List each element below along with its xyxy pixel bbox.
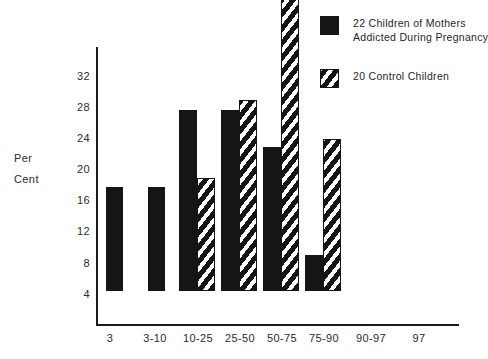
y-axis-ticks: 32 28 24 20 16 12 8 4 (52, 0, 90, 359)
legend-swatch-hatch-icon (320, 69, 339, 88)
plot-area (96, 0, 459, 326)
x-tick-25-50: 25-50 (225, 332, 255, 344)
legend-item-addicted: 22 Children of Mothers Addicted During P… (320, 16, 488, 44)
x-tick-75-90: 75-90 (309, 332, 339, 344)
legend-label-control: 20 Control Children (353, 69, 449, 83)
legend-label-control-line1: 20 Control Children (353, 69, 449, 83)
x-tick-3: 3 (107, 332, 114, 344)
bar-control-25-50 (239, 100, 257, 291)
x-tick-10-25: 10-25 (183, 332, 213, 344)
x-tick-50-75: 50-75 (267, 332, 297, 344)
y-tick-16: 16 (56, 194, 90, 206)
legend-swatch-solid-icon (320, 16, 339, 35)
bar-addicted-75-90 (305, 255, 323, 291)
bar-addicted-10-25 (179, 110, 197, 291)
bar-addicted-50-75 (263, 147, 281, 291)
bar-control-50-75 (281, 0, 299, 291)
x-tick-3-10: 3-10 (143, 332, 167, 344)
y-tick-8: 8 (56, 257, 90, 269)
x-tick-90-97: 90-97 (356, 332, 386, 344)
y-tick-32: 32 (56, 70, 90, 82)
y-axis-title-line2: Cent (14, 169, 39, 190)
y-tick-12: 12 (56, 225, 90, 237)
bar-control-10-25 (197, 178, 215, 291)
x-tick-97: 97 (412, 332, 425, 344)
bar-addicted-25-50 (221, 110, 239, 291)
legend-label-addicted: 22 Children of Mothers Addicted During P… (353, 16, 488, 44)
y-tick-24: 24 (56, 132, 90, 144)
y-tick-4: 4 (56, 288, 90, 300)
x-axis-ticks: 3 3-10 10-25 25-50 50-75 75-90 90-97 97 (0, 332, 482, 352)
y-axis-title-line1: Per (14, 148, 39, 169)
bar-addicted-3 (106, 187, 123, 291)
bar-addicted-3-10 (148, 187, 165, 291)
legend-item-control: 20 Control Children (320, 69, 449, 88)
y-tick-20: 20 (56, 163, 90, 175)
y-axis-title: Per Cent (14, 148, 39, 190)
legend-label-addicted-line1: 22 Children of Mothers (353, 16, 488, 30)
bar-control-75-90 (323, 139, 341, 291)
y-tick-28: 28 (56, 101, 90, 113)
legend-label-addicted-line2: Addicted During Pregnancy (353, 30, 488, 44)
